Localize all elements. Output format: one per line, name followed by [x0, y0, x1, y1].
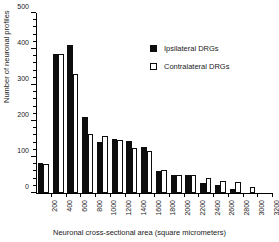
x-tick	[169, 193, 170, 197]
x-tick	[228, 193, 229, 197]
y-tick-label: 100	[17, 147, 29, 154]
chart-legend: Ipsilateral DRGs Contralateral DRGs	[150, 44, 229, 80]
y-tick-minor	[33, 134, 36, 135]
y-tick-minor	[33, 170, 36, 171]
legend-label-contralateral: Contralateral DRGs	[164, 62, 229, 71]
bar-contralateral	[176, 175, 182, 193]
x-tick-label: 600	[80, 200, 87, 212]
y-tick-minor	[33, 163, 36, 164]
bar-contralateral	[220, 181, 226, 193]
x-tick-label: 200	[51, 200, 58, 212]
y-axis-title: Number of neuronal profiles	[2, 10, 11, 103]
bar-contralateral	[117, 140, 123, 193]
y-tick-minor	[33, 113, 36, 114]
x-axis-title: Neuronal cross-sectional area (square mi…	[0, 228, 279, 237]
y-tick-major	[31, 48, 36, 49]
bar-contralateral	[147, 151, 153, 193]
x-tick	[139, 193, 140, 197]
y-tick-minor	[33, 142, 36, 143]
x-tick	[66, 193, 67, 197]
y-tick-major	[31, 120, 36, 121]
x-tick-label: 2600	[228, 200, 235, 216]
x-tick	[257, 193, 258, 197]
x-tick-label: 3000	[257, 200, 264, 216]
x-tick	[125, 193, 126, 197]
bar-contralateral	[58, 54, 64, 193]
plot-area: 0100200300400500	[36, 13, 272, 193]
x-tick	[213, 193, 214, 197]
x-tick	[272, 193, 273, 197]
x-tick	[110, 193, 111, 197]
y-tick-minor	[33, 62, 36, 63]
y-tick-minor	[33, 41, 36, 42]
bar-contralateral	[191, 175, 197, 193]
y-tick-minor	[33, 185, 36, 186]
y-tick-minor	[33, 98, 36, 99]
x-tick	[243, 193, 244, 197]
x-tick-label: 800	[95, 200, 102, 212]
y-tick-minor	[33, 149, 36, 150]
x-tick-label: 2800	[243, 200, 250, 216]
x-tick-label: 1000	[110, 200, 117, 216]
y-tick-minor	[33, 77, 36, 78]
x-tick-label: 3200	[272, 200, 279, 216]
open-square-icon	[150, 63, 157, 70]
bar-contralateral	[161, 170, 167, 193]
y-tick-major	[31, 84, 36, 85]
x-tick-label: 1800	[169, 200, 176, 216]
legend-item-contralateral: Contralateral DRGs	[150, 62, 229, 71]
legend-item-ipsilateral: Ipsilateral DRGs	[150, 44, 229, 53]
y-tick-major	[31, 12, 36, 13]
x-tick-label: 2200	[198, 200, 205, 216]
y-tick-major	[31, 156, 36, 157]
y-tick-label: 200	[17, 111, 29, 118]
x-tick	[95, 193, 96, 197]
y-tick-minor	[33, 26, 36, 27]
x-tick	[80, 193, 81, 197]
x-tick-label: 1200	[125, 200, 132, 216]
y-tick-minor	[33, 55, 36, 56]
y-tick-minor	[33, 91, 36, 92]
y-tick-minor	[33, 178, 36, 179]
y-tick-minor	[33, 34, 36, 35]
bar-contralateral	[250, 187, 256, 193]
y-tick-minor	[33, 127, 36, 128]
y-tick-label: 0	[25, 183, 29, 190]
x-tick-label: 2400	[213, 200, 220, 216]
y-tick-label: 300	[17, 75, 29, 82]
bar-contralateral	[88, 134, 94, 193]
x-tick-label: 2000	[184, 200, 191, 216]
y-tick-label: 500	[17, 3, 29, 10]
x-tick	[51, 193, 52, 197]
x-tick	[184, 193, 185, 197]
bar-contralateral	[43, 164, 49, 193]
bar-contralateral	[206, 178, 212, 193]
chart-figure: 0100200300400500 20040060080010001200140…	[0, 0, 279, 242]
x-tick-label: 1600	[154, 200, 161, 216]
y-tick-minor	[33, 19, 36, 20]
x-tick	[198, 193, 199, 197]
y-tick-minor	[33, 70, 36, 71]
bar-contralateral	[102, 136, 108, 193]
y-tick-label: 400	[17, 39, 29, 46]
bar-contralateral	[235, 182, 241, 193]
x-tick	[154, 193, 155, 197]
x-tick-label: 1400	[139, 200, 146, 216]
y-tick-major	[31, 192, 36, 193]
bar-contralateral	[73, 74, 79, 193]
filled-square-icon	[150, 45, 157, 52]
x-tick-label: 400	[66, 200, 73, 212]
bar-contralateral	[132, 148, 138, 193]
legend-label-ipsilateral: Ipsilateral DRGs	[164, 44, 219, 53]
y-tick-minor	[33, 106, 36, 107]
